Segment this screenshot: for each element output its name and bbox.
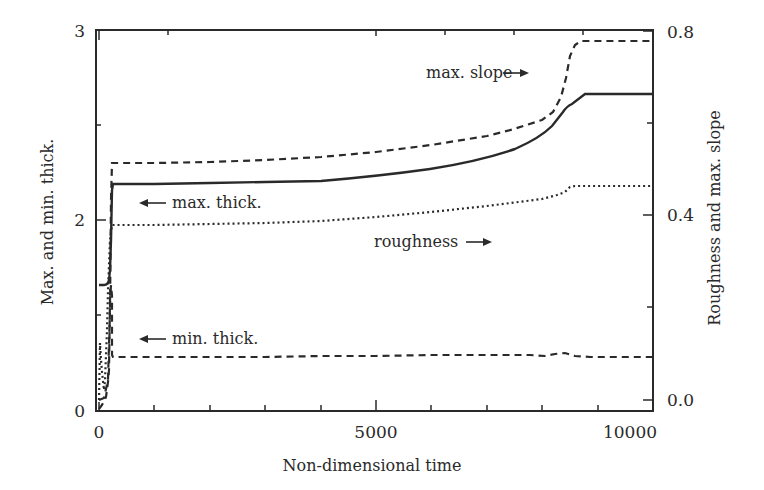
annotation-min-thick: min. thick. [139,329,258,348]
y-left-axis-title: Max. and min. thick. [38,139,57,306]
chart: 0 5000 10000 0 2 3 0.0 0.4 0.8 Non-dimen… [0,0,764,490]
annotation-max-thick-label: max. thick. [172,193,262,212]
series-roughness [99,186,653,400]
x-axis-ticks [99,30,653,411]
y-left-tick-label-3: 3 [74,21,85,41]
left-arrow-icon [139,199,166,207]
y-right-tick-label-0.0: 0.0 [667,390,694,410]
left-arrow-icon [139,335,166,343]
annotation-max-slope-label: max. slope [426,63,513,82]
y-right-axis-title: Roughness and max. slope [705,110,724,326]
x-tick-label-0: 0 [94,422,105,442]
annotation-max-thick: max. thick. [139,193,262,212]
y-left-tick-label-2: 2 [74,210,85,230]
annotation-max-slope: max. slope [426,63,529,82]
y-left-ticks [96,125,106,315]
annotation-roughness: roughness [374,232,492,251]
right-arrow-icon [466,238,492,246]
y-right-tick-label-0.8: 0.8 [667,22,694,42]
y-right-ticks [643,31,653,400]
plot-frame [96,30,653,411]
y-right-tick-label-0.4: 0.4 [667,205,694,225]
y-left-tick-label-0: 0 [74,401,85,421]
annotation-roughness-label: roughness [374,232,458,251]
series-max-thick [99,94,653,285]
annotation-min-thick-label: min. thick. [172,329,258,348]
x-axis-title: Non-dimensional time [283,456,462,475]
x-tick-label-5000: 5000 [354,422,397,442]
x-tick-label-10000: 10000 [603,422,657,442]
